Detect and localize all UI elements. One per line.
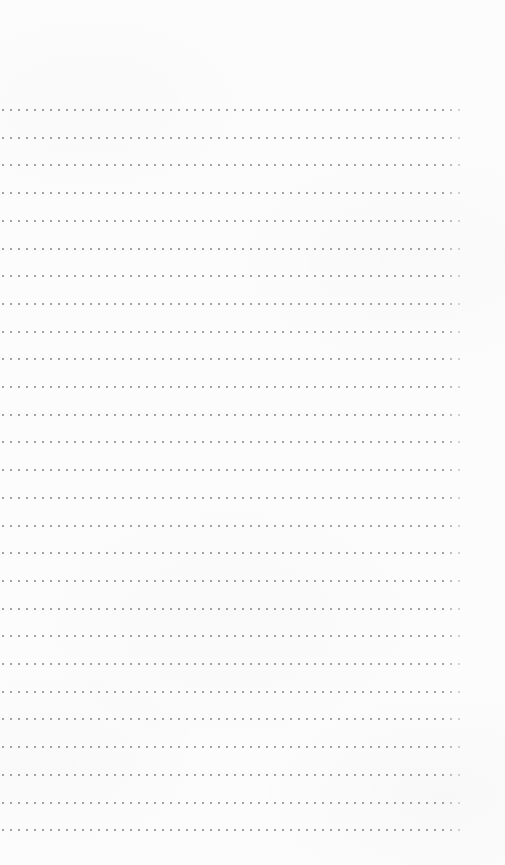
grid-dot <box>426 331 428 333</box>
grid-dot <box>266 608 268 610</box>
grid-dot <box>234 663 236 665</box>
grid-dot <box>426 691 428 693</box>
grid-dot <box>186 580 188 582</box>
grid-dot <box>338 469 340 471</box>
grid-dot <box>218 718 220 720</box>
grid-dot <box>386 275 388 277</box>
grid-dot <box>146 109 148 111</box>
grid-dot <box>106 192 108 194</box>
grid-dot <box>34 164 36 166</box>
grid-dot <box>322 386 324 388</box>
grid-dot <box>202 552 204 554</box>
grid-dot <box>74 441 76 443</box>
grid-dot <box>298 469 300 471</box>
grid-dot <box>50 635 52 637</box>
grid-dot <box>250 441 252 443</box>
grid-dot <box>242 718 244 720</box>
grid-dot <box>410 192 412 194</box>
grid-dot <box>274 469 276 471</box>
grid-dot <box>258 386 260 388</box>
grid-dot <box>42 192 44 194</box>
grid-dot <box>50 386 52 388</box>
grid-dot <box>234 248 236 250</box>
dotted-rule-row <box>0 525 505 528</box>
grid-dot <box>50 774 52 776</box>
grid-dot <box>170 552 172 554</box>
grid-dot <box>122 691 124 693</box>
grid-dot <box>26 774 28 776</box>
grid-dot <box>66 525 68 527</box>
grid-dot <box>314 608 316 610</box>
grid-dot <box>42 386 44 388</box>
grid-dot <box>250 497 252 499</box>
grid-dot <box>2 220 4 222</box>
grid-dot <box>82 497 84 499</box>
grid-dot <box>178 386 180 388</box>
grid-dot <box>82 691 84 693</box>
grid-dot <box>274 137 276 139</box>
grid-dot <box>114 303 116 305</box>
grid-dot <box>218 275 220 277</box>
grid-dot <box>346 663 348 665</box>
grid-dot <box>242 608 244 610</box>
grid-dot <box>402 303 404 305</box>
grid-dot <box>226 386 228 388</box>
grid-dot <box>282 441 284 443</box>
grid-dot <box>66 414 68 416</box>
grid-dot <box>18 774 20 776</box>
grid-dot <box>410 137 412 139</box>
grid-dot <box>330 248 332 250</box>
grid-dot <box>250 137 252 139</box>
grid-dot <box>10 774 12 776</box>
grid-dot <box>250 552 252 554</box>
grid-dot <box>418 829 420 831</box>
grid-dot <box>170 331 172 333</box>
grid-dot <box>194 469 196 471</box>
grid-dot <box>434 663 436 665</box>
grid-dot <box>362 608 364 610</box>
grid-dot <box>450 192 452 194</box>
grid-dot <box>306 220 308 222</box>
grid-dot <box>2 829 4 831</box>
grid-dot <box>10 580 12 582</box>
grid-dot <box>322 248 324 250</box>
grid-dot <box>258 192 260 194</box>
grid-dot <box>186 608 188 610</box>
grid-dot <box>82 718 84 720</box>
grid-dot <box>418 718 420 720</box>
grid-dot <box>138 718 140 720</box>
grid-dot <box>258 718 260 720</box>
dotted-rule-row <box>0 497 505 500</box>
grid-dot <box>330 137 332 139</box>
grid-dot <box>186 469 188 471</box>
grid-dot <box>434 829 436 831</box>
grid-dot <box>18 718 20 720</box>
grid-dot <box>450 746 452 748</box>
grid-dot <box>290 220 292 222</box>
grid-dot <box>322 358 324 360</box>
grid-dot <box>162 718 164 720</box>
grid-dot <box>210 580 212 582</box>
grid-dot <box>298 331 300 333</box>
grid-dot <box>58 469 60 471</box>
grid-dot <box>42 441 44 443</box>
grid-dot <box>90 552 92 554</box>
grid-dot <box>378 331 380 333</box>
grid-dot <box>194 331 196 333</box>
grid-dot <box>250 275 252 277</box>
grid-dot <box>322 608 324 610</box>
grid-dot <box>122 774 124 776</box>
grid-dot <box>426 525 428 527</box>
grid-dot <box>202 192 204 194</box>
grid-dot <box>266 552 268 554</box>
grid-dot <box>146 303 148 305</box>
grid-dot <box>378 608 380 610</box>
grid-dot <box>202 663 204 665</box>
grid-dot <box>42 469 44 471</box>
grid-dot <box>74 358 76 360</box>
grid-dot <box>146 829 148 831</box>
grid-dot <box>34 608 36 610</box>
grid-dot <box>130 608 132 610</box>
grid-dot <box>74 386 76 388</box>
grid-dot <box>370 220 372 222</box>
